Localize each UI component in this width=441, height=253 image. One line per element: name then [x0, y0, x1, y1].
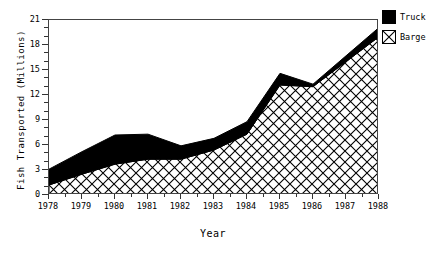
- y-tick-label-15: 15: [20, 65, 40, 73]
- x-tick-1987: [345, 194, 346, 199]
- x-tick-1986: [312, 194, 313, 199]
- x-tick-minor: [296, 194, 297, 197]
- x-tick-minor: [197, 194, 198, 197]
- x-tick-1980: [114, 194, 115, 199]
- x-tick-1985: [279, 194, 280, 199]
- legend-label-barge: Barge: [400, 32, 426, 42]
- legend-swatch-truck-icon: [382, 10, 396, 24]
- y-tick-label-6: 6: [20, 140, 40, 148]
- x-tick-1984: [246, 194, 247, 199]
- x-tick-minor: [230, 194, 231, 197]
- y-tick-label-12: 12: [20, 90, 40, 98]
- chart-legend: Truck Barge: [382, 10, 441, 50]
- legend-label-truck: Truck: [400, 12, 426, 22]
- y-tick-label-9: 9: [20, 115, 40, 123]
- area-chart-svg: [48, 19, 378, 194]
- x-tick-1978: [48, 194, 49, 199]
- x-tick-minor: [131, 194, 132, 197]
- plot-area: [48, 19, 378, 194]
- x-tick-1979: [81, 194, 82, 199]
- x-tick-minor: [263, 194, 264, 197]
- y-tick-label-21: 21: [20, 15, 40, 23]
- x-axis-title: Year: [48, 228, 378, 239]
- x-tick-1981: [147, 194, 148, 199]
- legend-item-truck: Truck: [382, 10, 441, 24]
- area-series-barge: [49, 37, 378, 194]
- x-tick-minor: [329, 194, 330, 197]
- y-tick-label-18: 18: [20, 40, 40, 48]
- x-tick-1982: [180, 194, 181, 199]
- x-tick-minor: [65, 194, 66, 197]
- x-tick-label-1988: 1988: [358, 201, 398, 211]
- x-tick-minor: [362, 194, 363, 197]
- y-tick-label-0: 0: [20, 190, 40, 198]
- x-tick-1983: [213, 194, 214, 199]
- y-tick-label-3: 3: [20, 165, 40, 173]
- chart-figure: Fish Transported (Millions) 21 18 15 12 …: [0, 0, 441, 253]
- legend-swatch-barge-icon: [382, 30, 396, 44]
- x-tick-minor: [98, 194, 99, 197]
- legend-item-barge: Barge: [382, 30, 441, 44]
- x-tick-minor: [164, 194, 165, 197]
- x-tick-1988: [378, 194, 379, 199]
